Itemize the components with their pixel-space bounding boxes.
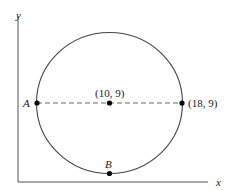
point-a (34, 100, 39, 105)
y-axis-label: y (15, 9, 21, 21)
x-axis-label: x (215, 176, 221, 188)
circle-diagram: y x A (10, 9) (18, 9) B (0, 0, 228, 190)
point-center (107, 100, 112, 105)
point-center-label: (10, 9) (95, 87, 125, 100)
point-a-label: A (22, 97, 30, 109)
point-b (107, 171, 112, 176)
point-right (179, 100, 184, 105)
point-right-label: (18, 9) (188, 97, 218, 110)
point-b-label: B (105, 158, 112, 170)
